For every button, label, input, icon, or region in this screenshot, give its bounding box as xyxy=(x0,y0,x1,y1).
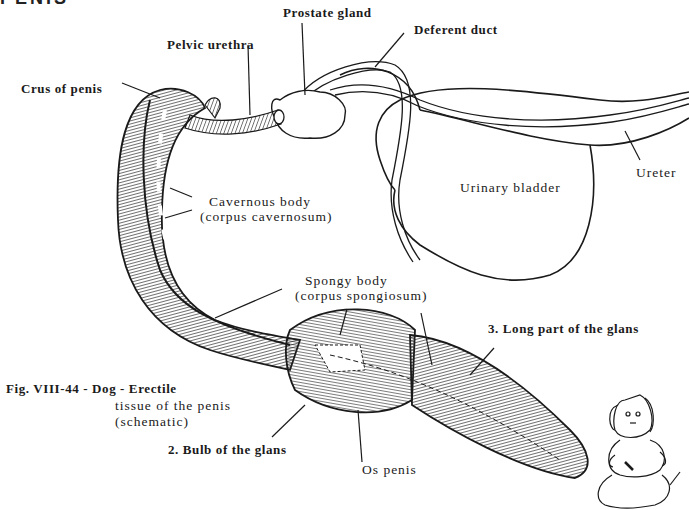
label-long-part-glans: 3. Long part of the glans xyxy=(488,322,639,337)
label-pelvic-urethra: Pelvic urethra xyxy=(167,38,254,53)
label-cavernous-body: Cavernous body xyxy=(209,194,311,210)
label-prostate-gland: Prostate gland xyxy=(283,6,372,21)
figure-caption-line1: Fig. VIII-44 - Dog - Erectile xyxy=(6,382,177,397)
label-ureter: Ureter xyxy=(636,165,676,181)
label-spongy-body: Spongy body xyxy=(305,273,388,289)
label-urinary-bladder: Urinary bladder xyxy=(460,180,561,196)
label-os-penis: Os penis xyxy=(362,462,417,478)
label-deferent-duct: Deferent duct xyxy=(414,23,498,38)
pelvic-urethra-drawing xyxy=(185,110,281,134)
deferent-duct-drawing xyxy=(300,62,689,262)
long-part-glans-drawing xyxy=(410,335,588,478)
cartoon-dog-drawing xyxy=(598,395,680,508)
label-corpus-cavernosum: (corpus cavernosum) xyxy=(200,209,333,225)
figure-caption-line3: (schematic) xyxy=(115,414,189,430)
label-corpus-spongiosum: (corpus spongiosum) xyxy=(295,288,428,304)
label-bulb-glans: 2. Bulb of the glans xyxy=(168,443,287,458)
label-crus-of-penis: Crus of penis xyxy=(21,82,102,97)
figure-caption-line2: tissue of the penis xyxy=(115,398,231,414)
anatomical-illustration xyxy=(0,0,689,510)
